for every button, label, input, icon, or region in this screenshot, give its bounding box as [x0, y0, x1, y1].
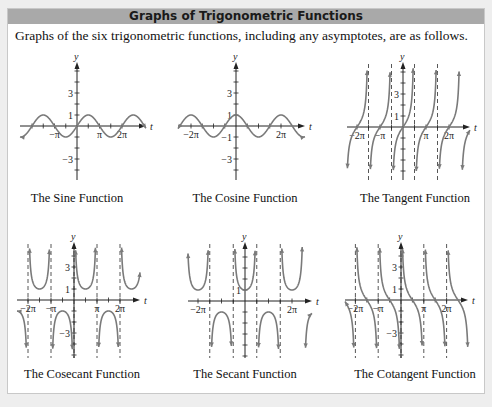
secant-caption: The Secant Function	[180, 367, 310, 382]
function-curve	[403, 249, 423, 346]
curve-arrow-icon	[465, 342, 469, 347]
svg-text:π: π	[421, 303, 426, 314]
cotangent-caption: The Cotangent Function	[342, 367, 488, 382]
curve-arrow-icon	[378, 248, 382, 253]
x-axis-arrow-icon	[461, 298, 468, 303]
svg-text:1: 1	[392, 284, 397, 295]
cosine-caption: The Cosine Function	[180, 191, 310, 206]
svg-text:2π: 2π	[442, 303, 452, 314]
sine-caption: The Sine Function	[22, 191, 132, 206]
svg-text:−π: −π	[373, 303, 384, 314]
svg-text:y: y	[397, 231, 403, 242]
svg-text:t: t	[472, 295, 475, 306]
svg-text:−3: −3	[386, 328, 397, 339]
function-curve	[448, 250, 468, 346]
y-axis-arrow-icon	[399, 242, 404, 249]
svg-text:3: 3	[392, 262, 397, 273]
cosecant-caption: The Cosecant Function	[12, 367, 152, 382]
tangent-caption: The Tangent Function	[350, 191, 480, 206]
